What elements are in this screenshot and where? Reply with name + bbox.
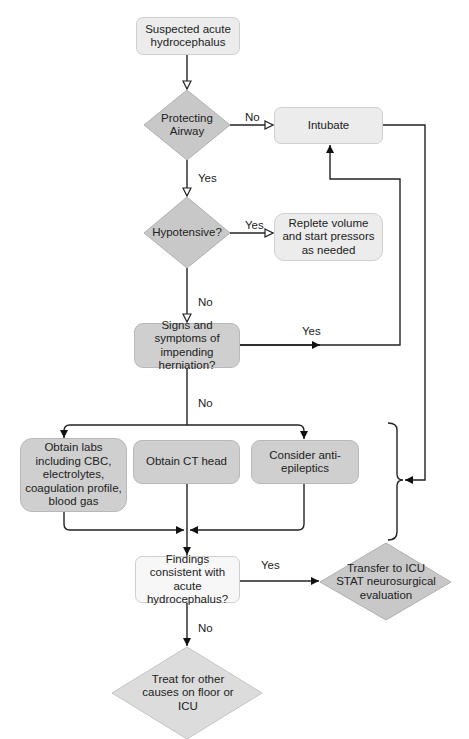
edge-label-airway-yes: Yes xyxy=(198,172,217,184)
node-labs-label: Obtain labs including CBC, electrolytes,… xyxy=(25,441,122,509)
node-replete: Replete volume and start pressors as nee… xyxy=(274,213,383,261)
node-herniation: Signs and symptoms of impending herniati… xyxy=(134,323,240,368)
edge-label-herniation-yes: Yes xyxy=(302,325,321,337)
node-treat-label: Treat for other causes on floor or ICU xyxy=(132,676,244,710)
edge-label-herniation-no: No xyxy=(198,397,213,409)
node-ct-label: Obtain CT head xyxy=(146,455,227,469)
edge-label-findings-yes: Yes xyxy=(261,559,280,571)
node-intubate-label: Intubate xyxy=(308,119,350,133)
node-replete-label: Replete volume and start pressors as nee… xyxy=(281,217,376,258)
node-hypotensive-label: Hypotensive? xyxy=(144,220,230,246)
node-start: Suspected acute hydrocephalus xyxy=(136,17,240,55)
node-findings: Findings consistent with acute hydroceph… xyxy=(135,556,240,603)
node-findings-label: Findings consistent with acute hydroceph… xyxy=(140,553,235,607)
edge-label-hypo-no: No xyxy=(198,296,213,308)
edge-label-hypo-yes: Yes xyxy=(245,219,264,231)
node-herniation-label: Signs and symptoms of impending herniati… xyxy=(139,319,235,373)
edge-label-findings-no: No xyxy=(198,622,213,634)
node-labs: Obtain labs including CBC, electrolytes,… xyxy=(20,438,127,512)
node-antiepileptics: Consider anti-epileptics xyxy=(251,440,359,484)
node-transfer-label: Transfer to ICU STAT neurosurgical evalu… xyxy=(335,560,437,604)
node-intubate: Intubate xyxy=(274,107,383,144)
node-antiepileptics-label: Consider anti-epileptics xyxy=(262,449,348,476)
edge-label-airway-no: No xyxy=(245,111,260,123)
node-airway-label: Protecting Airway xyxy=(144,108,230,142)
node-start-label: Suspected acute hydrocephalus xyxy=(137,23,239,50)
node-ct: Obtain CT head xyxy=(133,440,240,484)
